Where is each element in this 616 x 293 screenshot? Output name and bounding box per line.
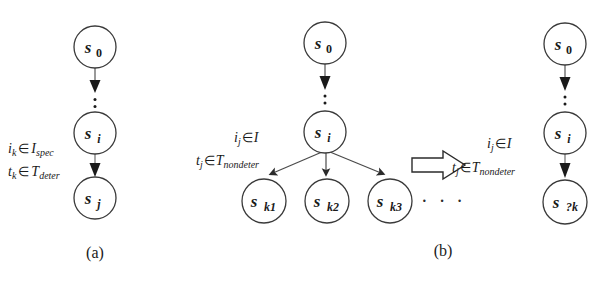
edge-b-s0-si [320, 64, 331, 105]
node-br-sqk-base: s [552, 193, 560, 212]
node-b-sk1[interactable]: s k1 [242, 179, 286, 223]
node-b-si-base: s [314, 123, 322, 142]
edge-b-si-sk3 [330, 152, 381, 173]
node-br-si[interactable]: s i [544, 112, 586, 154]
label-b-input-left: ij∈I [234, 130, 260, 147]
figure-canvas: s 0 s i s j ik∈Ispec tk∈Tdeter (a) [0, 0, 616, 293]
panel-a: s 0 s i s j ik∈Ispec tk∈Tdeter (a) [8, 26, 116, 262]
node-br-sqk[interactable]: s ?k [543, 180, 587, 224]
node-b-sk3[interactable]: s k3 [368, 179, 412, 223]
caption-a: (a) [86, 244, 104, 262]
panel-b-right: s 0 s i s ?k ij∈I tj∈Tnondeter [452, 23, 587, 224]
state-transition-figure: s 0 s i s j ik∈Ispec tk∈Tdeter (a) [0, 0, 616, 293]
edge-a-s0-si [90, 68, 101, 108]
edge-a-si-sj [90, 154, 101, 177]
node-br-s0-sub: 0 [566, 43, 572, 57]
edge-b-si-sk1 [273, 152, 322, 173]
panel-b-left: s 0 s i s k1 s k2 s k3 [196, 22, 466, 223]
node-b-sk2-sub: k2 [327, 200, 339, 214]
node-b-sk3-base: s [376, 192, 384, 211]
node-b-sk2[interactable]: s k2 [305, 179, 349, 223]
node-a-s0-sub: 0 [96, 46, 102, 60]
node-b-sk1-base: s [250, 192, 258, 211]
node-b-s0-base: s [314, 34, 322, 53]
node-b-sk1-sub: k1 [264, 200, 276, 214]
label-a-time: tk∈Tdeter [8, 164, 60, 181]
node-a-si[interactable]: s i [74, 112, 116, 154]
label-b-time-left: tj∈Tnondeter [196, 153, 259, 170]
node-a-sj[interactable]: s j [74, 177, 116, 219]
edge-br-s0-si [560, 65, 571, 106]
node-br-s0-base: s [554, 35, 562, 54]
node-b-s0-sub: 0 [326, 42, 332, 56]
caption-b: (b) [434, 242, 453, 260]
label-br-input: ij∈I [487, 136, 513, 153]
ellipsis-more-states: · · · [421, 190, 466, 212]
edge-br-si-sqk [560, 154, 571, 178]
node-br-s0[interactable]: s 0 [544, 23, 586, 65]
node-b-si[interactable]: s i [304, 111, 346, 153]
node-a-s0-base: s [84, 38, 92, 57]
label-br-time: tj∈Tnondeter [452, 160, 515, 177]
node-a-s0[interactable]: s 0 [74, 26, 116, 68]
node-a-si-base: s [84, 124, 92, 143]
node-b-s0[interactable]: s 0 [304, 22, 346, 64]
node-br-sqk-sub: ?k [566, 200, 578, 214]
node-a-sj-base: s [84, 189, 92, 208]
node-b-sk3-sub: k3 [390, 200, 402, 214]
label-a-input: ik∈Ispec [8, 141, 54, 158]
node-b-sk2-base: s [313, 192, 321, 211]
node-br-si-base: s [554, 124, 562, 143]
